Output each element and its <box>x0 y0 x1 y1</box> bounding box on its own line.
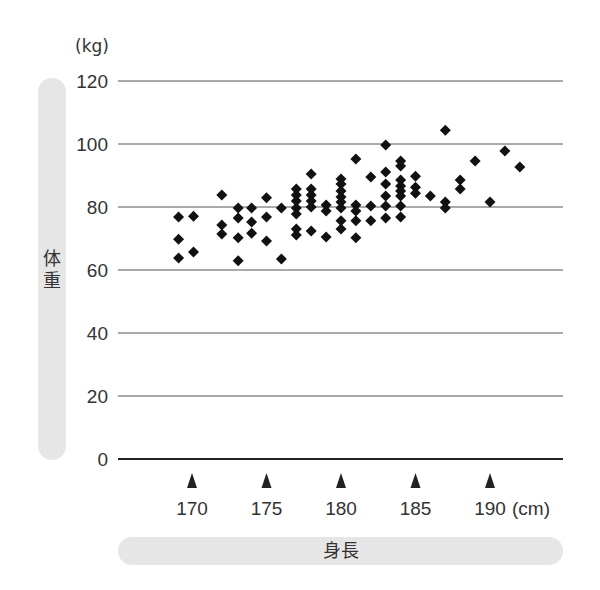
data-point <box>246 228 257 239</box>
y-tick-label: 60 <box>87 260 108 281</box>
data-point <box>470 156 481 167</box>
data-point <box>246 202 257 213</box>
data-point <box>173 253 184 264</box>
y-tick-label: 120 <box>76 71 108 92</box>
data-point <box>233 232 244 243</box>
data-point <box>261 212 272 223</box>
data-point <box>321 231 332 242</box>
data-point <box>291 230 302 241</box>
data-point <box>233 213 244 224</box>
data-point <box>440 202 451 213</box>
data-point <box>173 212 184 223</box>
data-point <box>306 202 317 213</box>
y-tick-label: 40 <box>87 323 108 344</box>
x-tick-label: 190 <box>474 498 506 519</box>
data-point <box>188 211 199 222</box>
data-point <box>365 172 376 183</box>
data-point <box>276 202 287 213</box>
plot-area: 020406080100120170175180185190(cm) <box>0 0 600 590</box>
data-point <box>365 215 376 226</box>
data-point <box>410 171 421 182</box>
data-point <box>380 201 391 212</box>
data-point <box>350 232 361 243</box>
data-point <box>455 184 466 195</box>
data-point <box>380 190 391 201</box>
data-point <box>410 188 421 199</box>
data-point <box>395 212 406 223</box>
y-tick-label: 80 <box>87 197 108 218</box>
data-point <box>216 190 227 201</box>
data-point <box>380 139 391 150</box>
x-tick-label: 180 <box>325 498 357 519</box>
x-tick-label: 185 <box>400 498 432 519</box>
data-point <box>306 225 317 236</box>
data-point <box>188 247 199 258</box>
data-point <box>425 190 436 201</box>
data-point <box>246 217 257 228</box>
data-point <box>380 167 391 178</box>
data-point <box>276 253 287 264</box>
data-point <box>261 192 272 203</box>
data-point <box>306 168 317 179</box>
x-unit-label: (cm) <box>512 498 550 519</box>
x-tick-triangle-icon <box>336 473 346 488</box>
data-point <box>291 208 302 219</box>
x-tick-label: 175 <box>251 498 283 519</box>
x-tick-label: 170 <box>176 498 208 519</box>
data-point <box>380 213 391 224</box>
x-tick-triangle-icon <box>485 473 495 488</box>
y-tick-label: 100 <box>76 134 108 155</box>
data-point <box>350 154 361 165</box>
data-point <box>485 196 496 207</box>
data-point <box>350 215 361 226</box>
scatter-chart: (kg) 体重 身長 02040608010012017017518018519… <box>0 0 600 590</box>
x-tick-triangle-icon <box>411 473 421 488</box>
data-point <box>380 179 391 190</box>
data-point <box>395 201 406 212</box>
data-point <box>514 161 525 172</box>
data-point <box>440 125 451 136</box>
y-tick-label: 20 <box>87 386 108 407</box>
x-tick-triangle-icon <box>262 473 272 488</box>
data-point <box>261 236 272 247</box>
y-tick-label: 0 <box>97 449 108 470</box>
data-point <box>233 255 244 266</box>
data-point <box>216 229 227 240</box>
x-tick-triangle-icon <box>187 473 197 488</box>
data-point <box>365 201 376 212</box>
data-point <box>336 224 347 235</box>
data-point <box>173 234 184 245</box>
data-point <box>499 145 510 156</box>
data-point <box>233 202 244 213</box>
data-point <box>336 202 347 213</box>
